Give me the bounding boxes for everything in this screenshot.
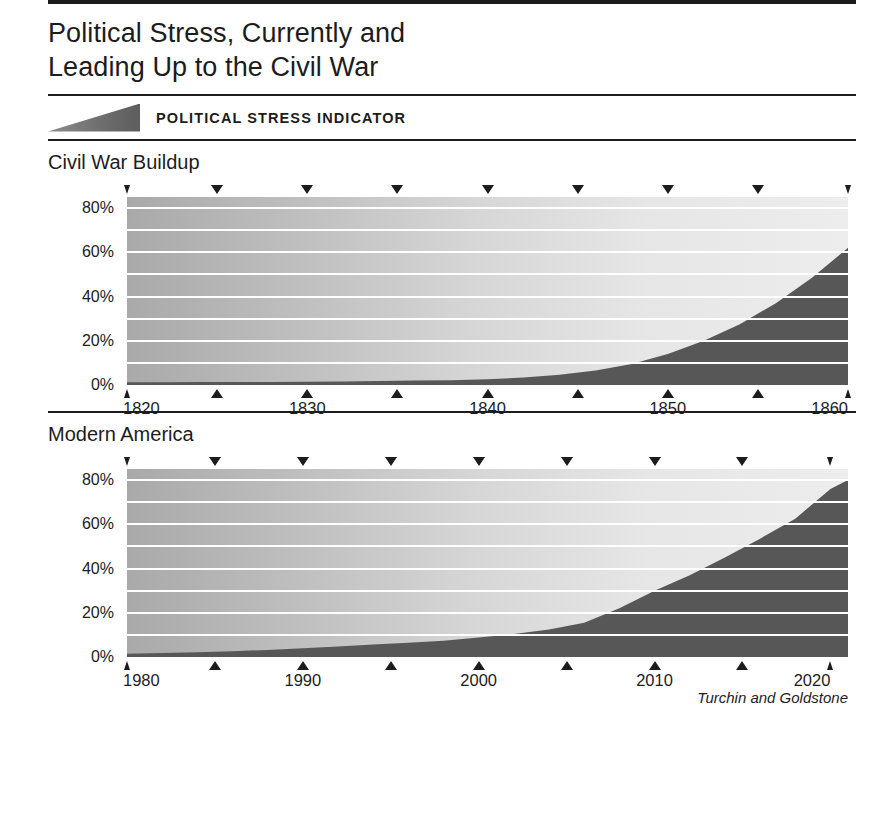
x-ticks-top-1 xyxy=(127,453,848,469)
y-tick-label: 40% xyxy=(82,288,114,306)
chart-modern-america: 0%20%40%60%80% 19801990200020102020 xyxy=(48,451,856,683)
x-tick-marker xyxy=(209,661,221,670)
x-tick-marker xyxy=(473,457,485,466)
x-tick-marker xyxy=(845,389,851,398)
x-tick-marker xyxy=(391,389,403,398)
x-tick-marker xyxy=(124,389,130,398)
x-tick-label: 1990 xyxy=(284,671,321,690)
legend-label: POLITICAL STRESS INDICATOR xyxy=(156,110,406,126)
x-tick-marker xyxy=(561,457,573,466)
x-tick-marker xyxy=(572,185,584,194)
y-axis-labels-0: 0%20%40%60%80% xyxy=(48,197,120,385)
x-tick-marker xyxy=(124,457,130,466)
y-tick-label: 60% xyxy=(82,243,114,261)
x-tick-marker xyxy=(827,661,833,670)
x-tick-marker xyxy=(845,185,851,194)
y-tick-label: 0% xyxy=(91,648,114,666)
y-axis-labels-1: 0%20%40%60%80% xyxy=(48,469,120,657)
x-tick-marker xyxy=(572,389,584,398)
panel-civil-war-buildup: Civil War Buildup 0%20%40%60%80% 1820183… xyxy=(48,141,856,411)
political-stress-area-1 xyxy=(127,469,848,657)
x-tick-marker xyxy=(385,661,397,670)
political-stress-area-0 xyxy=(127,197,848,385)
infographic-page: Political Stress, Currently and Leading … xyxy=(48,0,856,818)
y-tick-label: 40% xyxy=(82,560,114,578)
x-tick-marker xyxy=(385,457,397,466)
y-tick-label: 20% xyxy=(82,332,114,350)
x-tick-marker xyxy=(649,457,661,466)
x-tick-marker xyxy=(209,457,221,466)
x-tick-marker xyxy=(561,661,573,670)
page-title: Political Stress, Currently and Leading … xyxy=(48,4,856,94)
x-tick-marker xyxy=(752,185,764,194)
y-tick-label: 20% xyxy=(82,604,114,622)
chart-civil-war-buildup: 0%20%40%60%80% 18201830184018501860 xyxy=(48,179,856,411)
panel-modern-america: Modern America 0%20%40%60%80% 1980199020… xyxy=(48,413,856,683)
x-tick-marker xyxy=(752,389,764,398)
x-tick-marker xyxy=(301,185,313,194)
x-tick-marker xyxy=(827,457,833,466)
x-tick-marker xyxy=(297,457,309,466)
x-tick-marker xyxy=(736,457,748,466)
x-tick-marker xyxy=(211,389,223,398)
x-tick-marker xyxy=(391,185,403,194)
x-tick-marker xyxy=(482,389,494,398)
x-tick-label: 2010 xyxy=(636,671,673,690)
panel-title-0: Civil War Buildup xyxy=(48,141,856,179)
x-tick-marker xyxy=(736,661,748,670)
title-line-2: Leading Up to the Civil War xyxy=(48,50,856,84)
panel-title-1: Modern America xyxy=(48,413,856,451)
x-tick-marker xyxy=(124,661,130,670)
wedge-ramp-icon xyxy=(48,104,140,132)
x-tick-marker xyxy=(482,185,494,194)
x-axis-labels-1: 19801990200020102020 xyxy=(127,671,848,693)
x-tick-marker xyxy=(662,185,674,194)
plot-area-1 xyxy=(127,469,848,657)
x-tick-marker xyxy=(473,661,485,670)
y-tick-label: 80% xyxy=(82,199,114,217)
x-tick-label: 1980 xyxy=(123,671,160,690)
x-tick-label: 2020 xyxy=(794,671,831,690)
x-tick-marker xyxy=(124,185,130,194)
y-tick-label: 80% xyxy=(82,471,114,489)
x-tick-marker xyxy=(662,389,674,398)
y-tick-label: 0% xyxy=(91,376,114,394)
x-tick-label: 2000 xyxy=(460,671,497,690)
x-ticks-top-0 xyxy=(127,181,848,197)
plot-area-0 xyxy=(127,197,848,385)
x-tick-marker xyxy=(301,389,313,398)
y-tick-label: 60% xyxy=(82,515,114,533)
x-tick-marker xyxy=(649,661,661,670)
x-tick-marker xyxy=(297,661,309,670)
x-tick-marker xyxy=(211,185,223,194)
title-line-1: Political Stress, Currently and xyxy=(48,16,856,50)
legend: POLITICAL STRESS INDICATOR xyxy=(48,96,856,139)
